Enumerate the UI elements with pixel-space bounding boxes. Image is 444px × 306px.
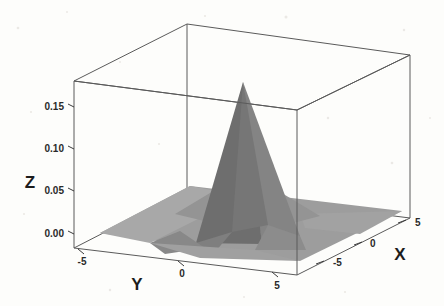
x-tick-label-0: -5: [333, 257, 342, 268]
density-surface: [100, 82, 402, 261]
y-tick-label-1: 0: [179, 268, 185, 279]
y-axis-title: Y: [131, 275, 143, 294]
z-tick-label-0: 0.00: [45, 228, 65, 239]
surface-plot-figure: 0.15 0.10 0.05 0.00 Z -5 0 5 Y -5 0 5 X: [0, 0, 444, 306]
y-tick-label-0: -5: [78, 256, 87, 267]
z-axis-title: Z: [25, 173, 35, 192]
x-axis-title: X: [394, 245, 406, 264]
z-tick-label-2: 0.10: [45, 143, 65, 154]
plot-canvas: 0.15 0.10 0.05 0.00 Z -5 0 5 Y -5 0 5 X: [0, 0, 444, 306]
z-tick-label-1: 0.05: [45, 185, 65, 196]
z-tick-label-3: 0.15: [45, 101, 65, 112]
x-tick-label-1: 0: [370, 238, 376, 249]
x-tick-label-2: 5: [415, 217, 421, 228]
z-axis-ticks: 0.15 0.10 0.05 0.00: [45, 101, 74, 239]
y-tick-label-2: 5: [274, 280, 280, 291]
